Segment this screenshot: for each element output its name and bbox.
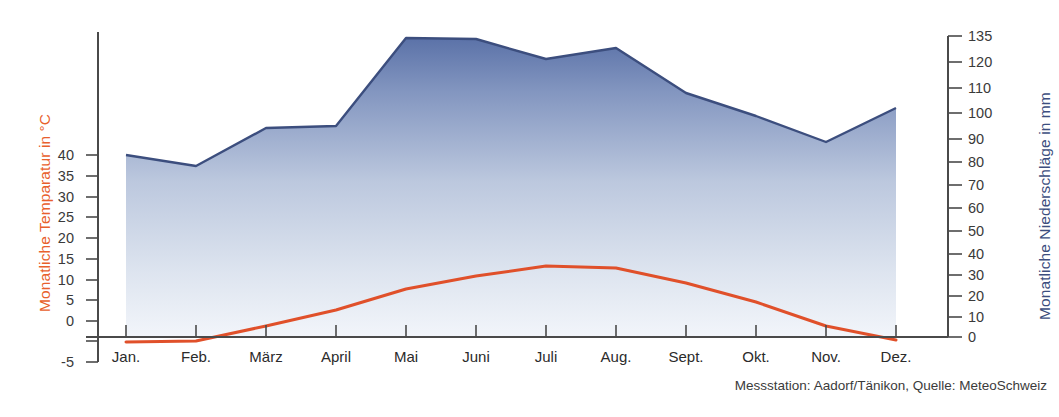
right-tick-label-50: 50 bbox=[968, 223, 984, 239]
left-tick-label-25: 25 bbox=[24, 209, 74, 225]
left-tick-label-15: 15 bbox=[24, 251, 74, 267]
month-label-jan: Jan. bbox=[112, 348, 140, 365]
month-label-feb: Feb. bbox=[181, 348, 211, 365]
left-axis-ticks bbox=[86, 155, 98, 362]
right-tick-label-70: 70 bbox=[968, 177, 984, 193]
month-label-nov: Nov. bbox=[811, 348, 841, 365]
right-tick-label-110: 110 bbox=[968, 80, 991, 96]
right-tick-label-135: 135 bbox=[968, 28, 992, 44]
month-label-april: April bbox=[321, 348, 351, 365]
source-note: Messstation: Aadorf/Tänikon, Quelle: Met… bbox=[735, 378, 1047, 393]
left-tick-label-20: 20 bbox=[24, 230, 74, 246]
month-label-juni: Juni bbox=[462, 348, 490, 365]
left-tick-label-5: 5 bbox=[24, 292, 74, 308]
month-label-dez: Dez. bbox=[881, 348, 912, 365]
month-label-okt: Okt. bbox=[742, 348, 770, 365]
precipitation-area-fill bbox=[126, 38, 896, 337]
right-tick-label-100: 100 bbox=[968, 105, 992, 121]
month-label-aug: Aug. bbox=[601, 348, 632, 365]
month-label-mai: Mai bbox=[394, 348, 418, 365]
left-tick-label-35: 35 bbox=[24, 168, 74, 184]
left-tick-label-40: 40 bbox=[24, 147, 74, 163]
right-axis-ticks bbox=[948, 36, 962, 337]
left-tick-label-minus5: -5 bbox=[24, 354, 74, 370]
climate-chart-figure: Monatliche Temparatur in °C Monatliche N… bbox=[0, 0, 1059, 417]
right-tick-label-10: 10 bbox=[968, 309, 984, 325]
right-tick-label-80: 80 bbox=[968, 154, 984, 170]
right-axis-title: Monatliche Niederschläge in mm bbox=[1036, 92, 1054, 320]
left-tick-label-0: 0 bbox=[24, 313, 74, 329]
right-tick-label-0: 0 bbox=[968, 329, 976, 345]
month-label-maerz: März bbox=[249, 348, 282, 365]
precipitation-area-series bbox=[126, 38, 896, 337]
left-tick-label-30: 30 bbox=[24, 189, 74, 205]
right-tick-label-60: 60 bbox=[968, 200, 984, 216]
right-tick-label-30: 30 bbox=[968, 267, 984, 283]
month-label-sept: Sept. bbox=[668, 348, 703, 365]
right-tick-label-90: 90 bbox=[968, 131, 984, 147]
left-tick-label-10: 10 bbox=[24, 272, 74, 288]
right-tick-label-20: 20 bbox=[968, 288, 984, 304]
right-tick-label-120: 120 bbox=[968, 54, 992, 70]
month-label-juli: Juli bbox=[535, 348, 558, 365]
right-tick-label-40: 40 bbox=[968, 246, 984, 262]
